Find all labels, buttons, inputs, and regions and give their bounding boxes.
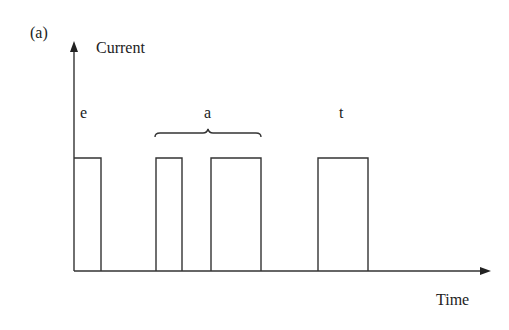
letter-t: t (339, 105, 343, 121)
pulse-diagram (0, 0, 509, 330)
pulse-a2 (211, 158, 261, 271)
x-axis-label: Time (436, 292, 469, 308)
y-axis-arrow-icon (70, 41, 78, 52)
pulse-e (74, 158, 101, 271)
y-axis-label: Current (96, 40, 145, 56)
pulse-a1 (156, 158, 182, 271)
pulse-t (318, 158, 368, 271)
letter-e: e (80, 105, 87, 121)
brace-a (155, 129, 261, 137)
x-axis-arrow-icon (480, 267, 491, 275)
panel-label: (a) (30, 25, 48, 41)
letter-a: a (204, 105, 211, 121)
